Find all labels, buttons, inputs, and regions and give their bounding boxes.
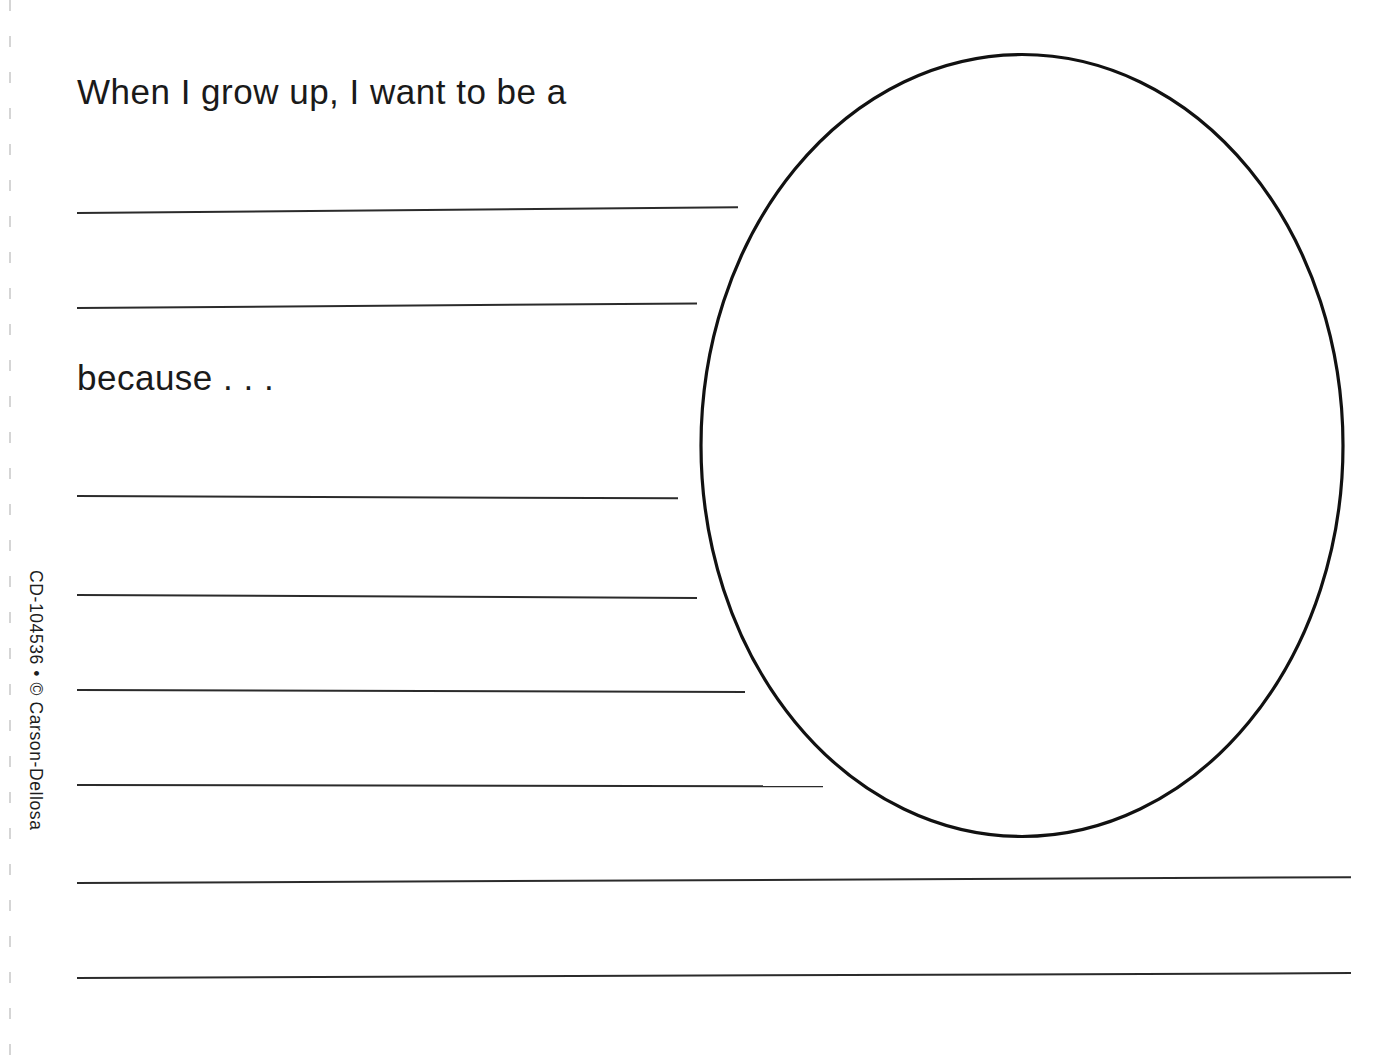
writing-line-2[interactable]	[77, 302, 697, 309]
drawing-area-oval[interactable]	[698, 51, 1346, 840]
writing-line-8[interactable]	[77, 972, 1351, 979]
writing-line-3[interactable]	[77, 495, 678, 499]
worksheet-page: When I grow up, I want to be a because .…	[0, 0, 1396, 1059]
prompt-line-2: because . . .	[77, 358, 274, 398]
writing-line-1[interactable]	[77, 206, 738, 214]
tear-line-perforation	[9, 0, 11, 1059]
oval-outline-icon	[698, 51, 1346, 840]
copyright-notice: CD-104536 • © Carson-Dellosa	[25, 570, 46, 831]
writing-line-4[interactable]	[77, 594, 697, 599]
writing-line-7[interactable]	[77, 876, 1351, 884]
writing-line-5[interactable]	[77, 689, 745, 693]
prompt-line-1: When I grow up, I want to be a	[77, 72, 567, 112]
